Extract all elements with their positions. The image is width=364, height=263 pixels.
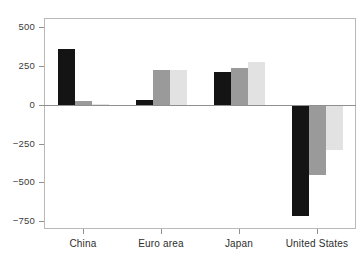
y-axis-tick-label: 500 bbox=[0, 21, 35, 32]
y-axis-tick-mark bbox=[39, 144, 44, 145]
bar bbox=[231, 68, 248, 105]
bar bbox=[326, 105, 343, 150]
bar bbox=[309, 105, 326, 175]
bar-chart: 5002500−250−500−750 ChinaEuro areaJapanU… bbox=[0, 0, 364, 263]
y-axis-tick-label: −250 bbox=[0, 138, 35, 149]
y-axis-tick-mark bbox=[39, 27, 44, 28]
y-axis-tick-mark bbox=[39, 66, 44, 67]
bar bbox=[248, 62, 265, 105]
bar bbox=[214, 72, 231, 105]
y-axis-tick-label: −500 bbox=[0, 176, 35, 187]
y-axis-tick-mark bbox=[39, 182, 44, 183]
x-axis-tick-mark bbox=[83, 229, 84, 234]
x-axis-tick-label: China bbox=[44, 238, 122, 249]
y-axis-tick-label: 250 bbox=[0, 60, 35, 71]
x-axis-tick-mark bbox=[239, 229, 240, 234]
bar bbox=[58, 49, 75, 104]
x-axis-tick-mark bbox=[161, 229, 162, 234]
y-axis-tick-mark bbox=[39, 221, 44, 222]
zero-baseline bbox=[44, 105, 356, 106]
bar bbox=[292, 105, 309, 216]
y-axis-tick-label: 0 bbox=[0, 99, 35, 110]
bar bbox=[153, 70, 170, 105]
x-axis-tick-mark bbox=[317, 229, 318, 234]
x-axis-tick-label: Euro area bbox=[122, 238, 200, 249]
bar bbox=[170, 70, 187, 105]
x-axis-tick-label: Japan bbox=[200, 238, 278, 249]
x-axis-tick-label: United States bbox=[278, 238, 356, 249]
y-axis-tick-label: −750 bbox=[0, 215, 35, 226]
